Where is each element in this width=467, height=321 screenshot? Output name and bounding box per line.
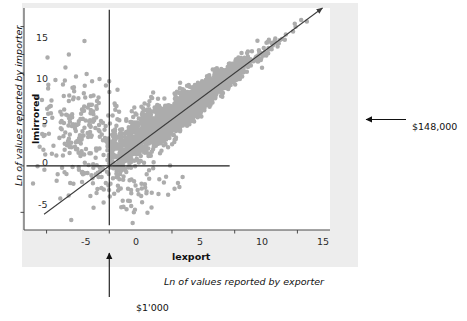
- callout-label-bottom: $1'000: [136, 303, 169, 313]
- scatter-plot-svg: [0, 0, 467, 321]
- y-tick-label-15: 15: [36, 33, 48, 43]
- x-tick-label-5: 5: [197, 237, 203, 247]
- y-axis-title: lmirrored: [31, 94, 41, 144]
- x-tick-label-15: 15: [317, 237, 329, 247]
- y-tick-label-5: 5: [42, 116, 48, 126]
- x-axis-description: Ln of values reported by exporter: [164, 277, 324, 287]
- callout-label-right: $148,000: [412, 122, 457, 132]
- y-axis-description: Ln of values reported by importer: [14, 26, 24, 186]
- x-tick-label-10: 10: [256, 237, 268, 247]
- x-tick-label-minus5: -5: [81, 237, 90, 247]
- y-tick-label-10: 10: [36, 74, 48, 84]
- y-tick-label-0: 0: [42, 158, 48, 168]
- x-axis-title: lexport: [172, 252, 210, 262]
- x-tick-label-0: 0: [133, 237, 139, 247]
- y-tick-label-minus5: -5: [38, 200, 47, 210]
